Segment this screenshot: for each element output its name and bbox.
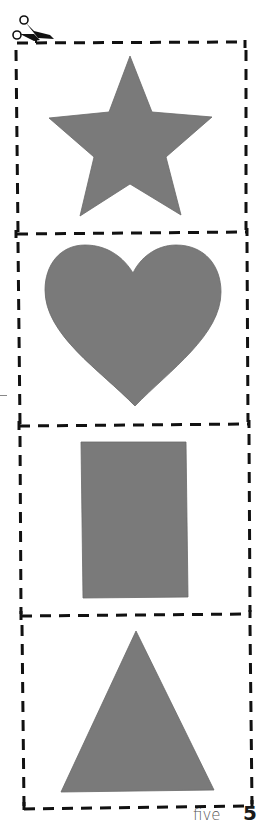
triangle-shape	[61, 631, 214, 792]
cut-out-sheet	[0, 0, 265, 832]
cut-line-left-4	[22, 625, 24, 806]
cut-line-right-3	[249, 434, 250, 612]
rectangle-shape	[81, 442, 188, 598]
cut-line-divider-3	[21, 614, 250, 616]
margin-mark	[0, 395, 7, 396]
cut-line-right-4	[250, 625, 252, 804]
star-shape	[49, 56, 212, 216]
cut-line-divider-1	[17, 232, 247, 234]
cut-line-divider-2	[19, 424, 249, 426]
cut-line-right-2	[247, 242, 248, 422]
worksheet-page: five 5	[0, 0, 265, 832]
cut-line-left-2	[18, 242, 20, 424]
cut-line-left-3	[20, 436, 21, 614]
cut-line-top	[17, 42, 246, 43]
page-number-word: five	[193, 806, 221, 824]
heart-shape	[45, 245, 221, 406]
cut-line-left-1	[16, 50, 18, 232]
scissors-icon	[13, 16, 54, 43]
page-number: 5	[243, 801, 257, 825]
